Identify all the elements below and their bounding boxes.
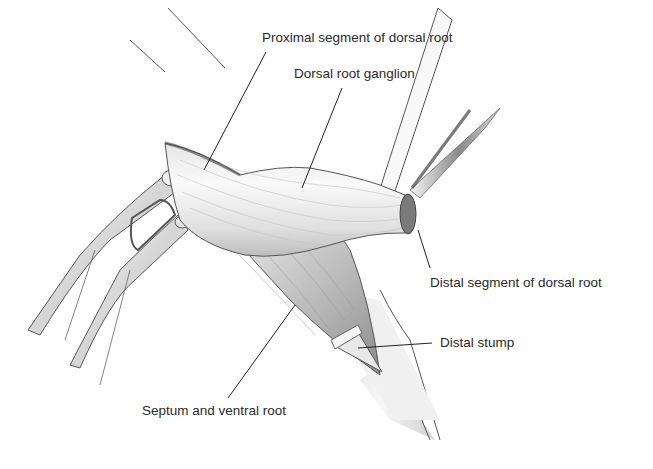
label-distal-segment: Distal segment of dorsal root bbox=[430, 276, 602, 290]
label-dorsal-root-ganglion: Dorsal root ganglion bbox=[294, 67, 415, 81]
label-proximal-segment: Proximal segment of dorsal root bbox=[262, 31, 453, 45]
label-distal-stump: Distal stump bbox=[440, 336, 514, 350]
label-septum-ventral-root: Septum and ventral root bbox=[142, 404, 286, 418]
forceps bbox=[28, 170, 189, 385]
distal-cut-end bbox=[400, 194, 416, 234]
